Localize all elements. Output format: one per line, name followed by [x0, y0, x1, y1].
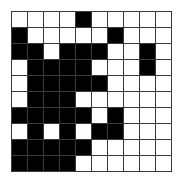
- grid-cell: [76, 140, 92, 156]
- grid-cell: [140, 124, 156, 140]
- grid-cell: [44, 156, 60, 172]
- grid-cell: [92, 60, 108, 76]
- grid-cell: [28, 28, 44, 44]
- grid-cell: [92, 108, 108, 124]
- grid-cell: [92, 28, 108, 44]
- grid-cell: [12, 156, 28, 172]
- grid-cell: [124, 124, 140, 140]
- grid-cell: [12, 140, 28, 156]
- grid-row: [12, 124, 172, 140]
- grid-cell: [76, 44, 92, 60]
- grid-row: [12, 140, 172, 156]
- grid-cell: [28, 124, 44, 140]
- grid-cell: [156, 12, 172, 28]
- grid-cell: [124, 12, 140, 28]
- grid-cell: [124, 108, 140, 124]
- grid-cell: [156, 28, 172, 44]
- grid-cell: [124, 140, 140, 156]
- grid-row: [12, 12, 172, 28]
- grid-row: [12, 156, 172, 172]
- grid-cell: [124, 60, 140, 76]
- grid-cell: [140, 60, 156, 76]
- grid-cell: [108, 12, 124, 28]
- grid-cell: [28, 12, 44, 28]
- grid-cell: [28, 140, 44, 156]
- grid-cell: [60, 156, 76, 172]
- grid-cell: [140, 44, 156, 60]
- grid-body: [12, 12, 172, 172]
- grid-cell: [28, 44, 44, 60]
- grid-cell: [156, 108, 172, 124]
- grid-cell: [92, 12, 108, 28]
- grid-cell: [108, 124, 124, 140]
- grid-cell: [156, 60, 172, 76]
- grid-table: [11, 11, 172, 172]
- grid-cell: [60, 12, 76, 28]
- grid-cell: [44, 76, 60, 92]
- grid-cell: [124, 76, 140, 92]
- grid-cell: [124, 92, 140, 108]
- grid-cell: [60, 44, 76, 60]
- grid-cell: [60, 124, 76, 140]
- grid-cell: [156, 92, 172, 108]
- grid-cell: [140, 156, 156, 172]
- grid-row: [12, 28, 172, 44]
- grid-cell: [28, 76, 44, 92]
- grid-cell: [76, 76, 92, 92]
- grid-cell: [44, 12, 60, 28]
- grid-cell: [12, 12, 28, 28]
- grid-cell: [76, 60, 92, 76]
- grid-cell: [156, 140, 172, 156]
- grid-cell: [92, 44, 108, 60]
- grid-cell: [28, 108, 44, 124]
- grid-cell: [140, 28, 156, 44]
- grid-cell: [108, 76, 124, 92]
- grid-row: [12, 92, 172, 108]
- grid-cell: [108, 108, 124, 124]
- grid-row: [12, 60, 172, 76]
- grid-cell: [60, 140, 76, 156]
- grid-cell: [124, 44, 140, 60]
- grid-cell: [12, 44, 28, 60]
- grid-cell: [156, 76, 172, 92]
- grid-cell: [12, 28, 28, 44]
- binary-grid-figure: [11, 11, 172, 172]
- grid-cell: [76, 92, 92, 108]
- grid-cell: [44, 140, 60, 156]
- grid-cell: [140, 92, 156, 108]
- grid-cell: [140, 108, 156, 124]
- grid-cell: [156, 156, 172, 172]
- grid-cell: [92, 140, 108, 156]
- grid-cell: [108, 140, 124, 156]
- grid-cell: [156, 44, 172, 60]
- grid-cell: [124, 28, 140, 44]
- grid-cell: [140, 140, 156, 156]
- grid-cell: [12, 92, 28, 108]
- grid-cell: [108, 44, 124, 60]
- grid-cell: [12, 60, 28, 76]
- grid-cell: [44, 60, 60, 76]
- grid-cell: [108, 92, 124, 108]
- grid-cell: [76, 108, 92, 124]
- grid-cell: [76, 124, 92, 140]
- grid-cell: [124, 156, 140, 172]
- grid-cell: [12, 108, 28, 124]
- grid-cell: [60, 28, 76, 44]
- grid-cell: [44, 28, 60, 44]
- grid-cell: [60, 60, 76, 76]
- grid-cell: [44, 124, 60, 140]
- grid-cell: [60, 92, 76, 108]
- grid-cell: [12, 76, 28, 92]
- grid-cell: [108, 60, 124, 76]
- grid-cell: [44, 108, 60, 124]
- grid-cell: [140, 12, 156, 28]
- grid-row: [12, 44, 172, 60]
- grid-cell: [140, 76, 156, 92]
- grid-cell: [92, 76, 108, 92]
- grid-cell: [76, 12, 92, 28]
- grid-cell: [12, 124, 28, 140]
- grid-cell: [44, 92, 60, 108]
- grid-row: [12, 108, 172, 124]
- grid-cell: [60, 76, 76, 92]
- grid-cell: [76, 28, 92, 44]
